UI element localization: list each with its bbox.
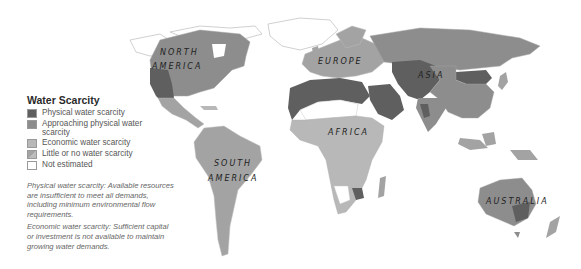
- south-america: [194, 126, 262, 256]
- swatch-little: [27, 150, 37, 159]
- label-asia: ASIA: [417, 71, 444, 80]
- legend-item-not-estimated: Not estimated: [27, 161, 162, 170]
- legend-item-approaching: Approaching physical water scarcity: [27, 120, 162, 137]
- legend-item-physical: Physical water scarcity: [27, 109, 162, 118]
- label-south-america-1: SOUTH: [214, 159, 252, 168]
- new-zealand: [546, 216, 560, 238]
- india: [416, 98, 446, 132]
- label-europe: EUROPE: [318, 57, 363, 66]
- label-south-america-2: AMERICA: [207, 174, 258, 183]
- japan: [498, 72, 508, 90]
- label-north-america-2: AMERICA: [151, 62, 202, 71]
- indonesia: [458, 138, 488, 150]
- label-australia: AUSTRALIA: [485, 197, 549, 206]
- arabia-physical: [368, 84, 404, 120]
- legend-label: Approaching physical water scarcity: [42, 120, 162, 137]
- borneo: [482, 132, 496, 146]
- swatch-not-estimated: [27, 161, 37, 170]
- caribbean: [200, 106, 218, 110]
- swatch-economic: [27, 139, 37, 148]
- legend-title: Water Scarcity: [27, 94, 162, 106]
- note-economic: Economic water scarcity: Sufficient capi…: [27, 222, 177, 251]
- central-america: [158, 98, 204, 128]
- note-physical: Physical water scarcity: Available resou…: [27, 181, 177, 219]
- hudson-bay: [212, 44, 226, 58]
- madagascar: [378, 176, 386, 198]
- new-guinea: [510, 150, 538, 160]
- swatch-approaching: [27, 120, 37, 129]
- label-africa: AFRICA: [327, 128, 369, 137]
- swatch-physical: [27, 109, 37, 118]
- legend-item-little: Little or no water scarcity: [27, 150, 162, 159]
- legend-label: Little or no water scarcity: [42, 150, 133, 159]
- legend-notes: Physical water scarcity: Available resou…: [27, 181, 177, 254]
- tasmania: [514, 232, 520, 238]
- legend-label: Not estimated: [42, 161, 93, 170]
- china-north-physical: [456, 70, 492, 84]
- legend: Water Scarcity Physical water scarcity A…: [27, 94, 162, 172]
- legend-label: Economic water scarcity: [42, 139, 130, 148]
- legend-label: Physical water scarcity: [42, 109, 125, 118]
- label-north-america-1: NORTH: [160, 48, 199, 57]
- legend-item-economic: Economic water scarcity: [27, 139, 162, 148]
